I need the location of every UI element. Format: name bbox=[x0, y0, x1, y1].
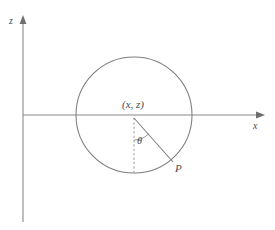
theta-angle-label: θ bbox=[137, 136, 142, 147]
z-axis-label: z bbox=[9, 16, 13, 26]
arrow-up-icon bbox=[20, 15, 27, 24]
arrow-right-icon bbox=[256, 112, 265, 119]
x-axis-label: x bbox=[253, 121, 257, 131]
point-p-label: P bbox=[175, 163, 182, 174]
figure-canvas bbox=[0, 0, 275, 230]
geometry-figure: z x (x, z) θ P bbox=[0, 0, 275, 230]
center-point-label: (x, z) bbox=[122, 99, 144, 110]
